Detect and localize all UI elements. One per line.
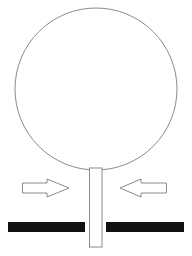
plate-right: [106, 222, 184, 232]
balloon-diagram: [0, 0, 192, 256]
plate-left: [8, 222, 85, 232]
stem: [90, 168, 103, 247]
arrow-right-pointing-icon: [23, 179, 70, 197]
arrow-left-pointing-icon: [120, 179, 167, 197]
balloon-circle: [15, 8, 177, 170]
